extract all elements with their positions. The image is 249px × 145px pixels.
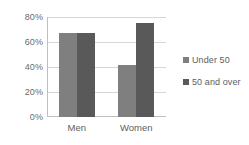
bar-under-50 (59, 33, 77, 117)
legend-item-under-50: Under 50 (183, 55, 247, 65)
x-axis-category-label: Men (47, 122, 107, 133)
bar-under-50 (118, 65, 136, 118)
legend-label-under-50: Under 50 (192, 55, 230, 65)
bar-pair (118, 17, 154, 117)
bar-50-and-over (136, 23, 154, 117)
bar-pair (59, 17, 95, 117)
plot-area (47, 17, 166, 117)
bar-chart: 80% 60% 40% 20% 0% (0, 0, 249, 145)
y-axis-tick-label: 20% (25, 87, 43, 97)
bar-group (47, 17, 107, 117)
x-axis-category-label: Women (107, 122, 167, 133)
y-axis-tick-label: 80% (25, 12, 43, 22)
x-axis-category-labels: Men Women (47, 122, 166, 133)
legend-label-50-and-over: 50 and over (192, 77, 241, 87)
y-axis-tick-labels: 80% 60% 40% 20% 0% (0, 17, 43, 117)
legend-swatch-50-and-over-icon (183, 79, 189, 85)
bar-groups (47, 17, 166, 117)
y-axis-tick-label: 0% (30, 112, 43, 122)
y-axis-tick-label: 40% (25, 62, 43, 72)
legend-item-50-and-over: 50 and over (183, 77, 247, 87)
bar-group (107, 17, 167, 117)
bar-50-and-over (77, 33, 95, 117)
chart-legend: Under 50 50 and over (183, 55, 247, 99)
legend-swatch-under-50-icon (183, 57, 189, 63)
y-axis-tick-label: 60% (25, 37, 43, 47)
